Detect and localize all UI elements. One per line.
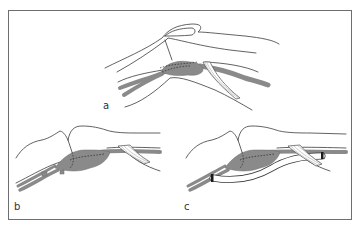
patella-outline — [165, 28, 195, 36]
knee-contour — [238, 126, 346, 140]
clamp-distal — [321, 152, 324, 159]
thigh-outline — [186, 131, 238, 158]
panel-b-illustration — [16, 126, 160, 190]
panel-c-illustration — [186, 126, 346, 190]
thigh-outline — [16, 131, 68, 158]
clamp-proximal — [211, 174, 214, 182]
panel-label-b: b — [14, 202, 20, 212]
diagram-canvas — [0, 0, 363, 229]
calf-upper-outline — [277, 147, 346, 148]
panel-a-illustration — [105, 24, 279, 110]
joint-line — [68, 140, 72, 152]
ligature-proximal — [42, 172, 47, 176]
aneurysm-mass — [55, 150, 110, 171]
panel-label-c: c — [184, 202, 190, 212]
calf-upper-outline — [107, 147, 160, 148]
vessel-proximal — [20, 170, 58, 190]
ligature-mid — [60, 170, 64, 174]
joint-line — [238, 140, 242, 152]
knee-contour — [68, 126, 160, 140]
panel-label-a: a — [103, 101, 109, 111]
joint-line — [165, 40, 172, 60]
aneurysm-mass — [162, 61, 203, 75]
thigh-outline — [105, 24, 279, 68]
